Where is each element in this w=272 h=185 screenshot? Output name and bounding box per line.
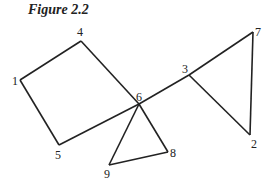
node-label-7: 7 <box>255 25 261 39</box>
node-label-4: 4 <box>77 25 83 39</box>
edge-7-2 <box>250 32 253 135</box>
node-label-2: 2 <box>251 137 257 151</box>
edge-1-5 <box>20 80 59 145</box>
node-label-1: 1 <box>12 74 18 88</box>
edge-6-9 <box>109 104 139 165</box>
edge-1-4 <box>20 41 81 80</box>
node-label-8: 8 <box>170 146 176 160</box>
graph-node-labels: 146537289 <box>12 25 261 181</box>
edge-6-8 <box>139 104 168 152</box>
node-label-5: 5 <box>55 148 61 162</box>
node-label-3: 3 <box>182 62 188 76</box>
edge-4-6 <box>81 41 139 104</box>
edge-3-7 <box>189 32 253 75</box>
edge-6-3 <box>139 75 189 104</box>
edge-3-2 <box>189 75 250 135</box>
node-label-6: 6 <box>136 90 142 104</box>
graph-diagram: 146537289 <box>0 0 272 185</box>
edge-9-8 <box>109 152 168 165</box>
edge-5-6 <box>59 104 139 145</box>
node-label-9: 9 <box>104 167 110 181</box>
